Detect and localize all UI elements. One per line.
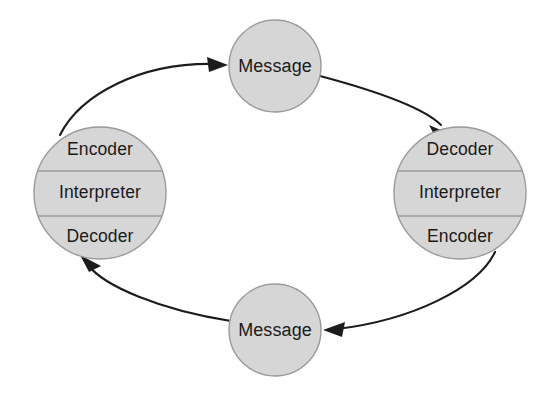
connector-left-to-top-message [60,57,228,135]
top-message-label: Message [238,56,312,76]
communication-cycle-diagram: Message Message Encoder Interpreter Deco… [0,0,550,397]
node-left-participant: Encoder Interpreter Decoder [34,127,166,259]
right-band-label-decoder: Decoder [427,139,494,159]
left-band-label-interpreter: Interpreter [59,182,141,202]
node-bottom-message: Message [229,284,321,376]
connector-bottom-message-to-left-line [88,265,231,321]
arrowhead-into-top-message [207,57,228,72]
connector-right-to-bottom-message-line [337,252,495,329]
left-band-label-encoder: Encoder [67,139,133,159]
node-right-participant: Decoder Interpreter Encoder [394,127,526,259]
connector-bottom-message-to-left [80,255,231,321]
node-top-message: Message [229,20,321,112]
connector-top-message-to-right-line [320,76,441,125]
arrowhead-into-bottom-message [323,322,345,337]
diagram-canvas: Message Message Encoder Interpreter Deco… [0,0,550,397]
right-band-label-interpreter: Interpreter [419,182,501,202]
left-band-label-decoder: Decoder [67,226,134,246]
connector-right-to-bottom-message [323,252,495,337]
bottom-message-label: Message [238,320,312,340]
connector-top-message-to-right [320,76,450,140]
right-band-label-encoder: Encoder [427,226,493,246]
connector-left-to-top-message-line [60,64,216,135]
